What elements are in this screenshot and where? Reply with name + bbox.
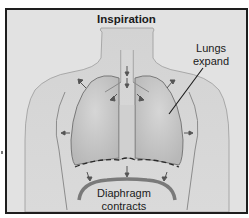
lungs-label-line2: expand [193,55,229,68]
diaphragm-contracts-label: Diaphragm contracts [97,187,151,213]
stray-mark [1,151,3,154]
diagram-frame: Inspiration Lungs expand Diaphragm contr… [5,8,248,214]
lungs-expand-label: Lungs expand [193,42,229,68]
anatomy-illustration [7,10,246,212]
diaphragm-label-line2: contracts [97,200,151,213]
lungs-label-line1: Lungs [193,42,229,55]
diagram-title: Inspiration [7,13,246,25]
diaphragm-label-line1: Diaphragm [97,187,151,200]
